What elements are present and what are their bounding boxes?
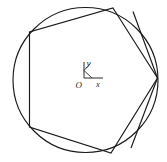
y-axis-label: y: [86, 58, 91, 68]
origin-label: O: [76, 80, 83, 90]
figure-canvas: y x O: [0, 0, 167, 162]
x-axis-label: x: [95, 79, 100, 89]
figure-background: [0, 0, 167, 162]
geometry-figure: y x O: [0, 0, 167, 162]
